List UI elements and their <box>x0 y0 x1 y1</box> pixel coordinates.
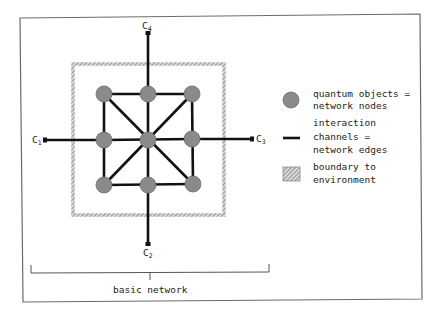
legend-nodes-line1: quantum objects = <box>313 88 411 99</box>
legend-nodes-line2: network nodes <box>313 100 387 111</box>
node <box>96 177 112 193</box>
node <box>184 86 200 102</box>
node <box>184 131 200 147</box>
legend: quantum objects = network nodes interact… <box>283 88 411 185</box>
legend-edges-line3: network edges <box>313 144 387 155</box>
basic-network-label: basic network <box>113 284 188 295</box>
channel-label-c2: C2 <box>143 247 153 260</box>
outer-frame <box>20 14 422 302</box>
channel-label-c4: C4 <box>142 20 152 33</box>
legend-boundary-line2: environment <box>313 174 376 185</box>
node <box>185 176 201 192</box>
legend-node-icon <box>283 92 299 108</box>
node <box>140 132 156 148</box>
channel-label-c3: C3 <box>256 133 266 146</box>
node <box>96 132 112 148</box>
quantum-network-diagram: C4 C2 C1 C3 quantum objects = network no… <box>0 0 439 315</box>
legend-edges-line1: interaction <box>313 117 376 128</box>
legend-boundary-line1: boundary to <box>313 161 376 172</box>
node <box>140 86 156 102</box>
basic-network-bracket <box>31 264 269 280</box>
legend-boundary-icon <box>283 167 300 181</box>
legend-edges-line2: channels = <box>313 131 370 142</box>
node <box>140 177 156 193</box>
channel-label-c1: C1 <box>32 134 42 147</box>
node <box>96 86 112 102</box>
